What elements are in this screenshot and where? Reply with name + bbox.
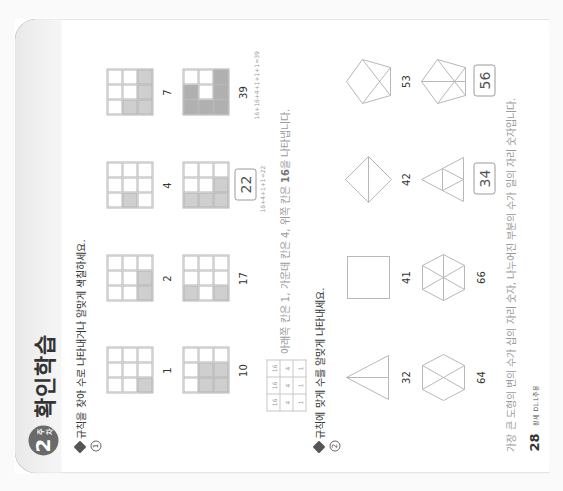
pattern-grid[interactable] xyxy=(182,161,229,208)
grid-cell[interactable] xyxy=(107,84,122,99)
grid-cell[interactable] xyxy=(198,177,213,192)
explanation-prefix: 아래쪽 칸은 1, 가운데 칸은 4, 위쪽 칸은 xyxy=(279,182,290,353)
answer-box[interactable]: 56 xyxy=(473,64,495,96)
grid-cell[interactable] xyxy=(122,255,137,270)
grid-cell[interactable] xyxy=(107,362,122,377)
key-table: 161616444111 xyxy=(266,359,306,411)
grid-cell[interactable] xyxy=(198,84,213,99)
grid-cell[interactable] xyxy=(107,285,122,300)
grid-cell[interactable] xyxy=(198,162,213,177)
pattern-grid[interactable] xyxy=(106,161,153,208)
grid-cell[interactable] xyxy=(213,69,228,84)
grid-cell[interactable] xyxy=(107,347,122,362)
grid-cell[interactable] xyxy=(198,285,213,300)
grid-cell[interactable] xyxy=(137,255,152,270)
grid-cell[interactable] xyxy=(122,285,137,300)
grid-cell[interactable] xyxy=(183,192,198,207)
grid-cell[interactable] xyxy=(213,377,228,392)
grid-cell[interactable] xyxy=(137,270,152,285)
grid-cell[interactable] xyxy=(183,270,198,285)
grid-cell[interactable] xyxy=(137,177,152,192)
explanation-bold: 16 xyxy=(279,169,290,183)
pattern-grid[interactable] xyxy=(106,346,153,393)
grid-cell[interactable] xyxy=(107,270,122,285)
grid-cell[interactable] xyxy=(107,162,122,177)
grid-cell[interactable] xyxy=(183,362,198,377)
pencil-icon xyxy=(312,440,325,453)
grid-cell[interactable] xyxy=(137,192,152,207)
grid-cell[interactable] xyxy=(213,192,228,207)
grid-cell[interactable] xyxy=(183,285,198,300)
key-row: 444 xyxy=(280,360,293,411)
grid-cell[interactable] xyxy=(198,347,213,362)
grid-cell[interactable] xyxy=(107,177,122,192)
grid-cell[interactable] xyxy=(122,192,137,207)
grid-cell[interactable] xyxy=(137,84,152,99)
grid-cell[interactable] xyxy=(137,362,152,377)
key-cell: 16 xyxy=(267,377,280,394)
grid-cell[interactable] xyxy=(137,377,152,392)
grid-cell[interactable] xyxy=(213,177,228,192)
grid-cell[interactable] xyxy=(213,84,228,99)
pattern-grid[interactable] xyxy=(182,68,229,115)
grid-cell[interactable] xyxy=(137,347,152,362)
grid-cell[interactable] xyxy=(198,192,213,207)
grid-cell[interactable] xyxy=(137,69,152,84)
shape-value: 66 xyxy=(475,257,486,297)
grid-cell[interactable] xyxy=(107,69,122,84)
grid-cell[interactable] xyxy=(183,99,198,114)
grid-cell[interactable] xyxy=(183,255,198,270)
grid-cell[interactable] xyxy=(213,270,228,285)
grid-cell[interactable] xyxy=(198,377,213,392)
grid-cell[interactable] xyxy=(213,285,228,300)
pattern-grid[interactable] xyxy=(182,346,229,393)
pattern-grid[interactable] xyxy=(182,254,229,301)
grid-cell[interactable] xyxy=(107,255,122,270)
grid-cell[interactable] xyxy=(107,99,122,114)
key-cell: 4 xyxy=(280,394,293,411)
grid-cell[interactable] xyxy=(122,99,137,114)
grid-cell[interactable] xyxy=(137,162,152,177)
grid-cell[interactable] xyxy=(183,347,198,362)
pattern-grid[interactable] xyxy=(106,254,153,301)
grid-cell[interactable] xyxy=(198,362,213,377)
work-note: 16+4+1+1=22 xyxy=(258,165,265,212)
key-cell: 1 xyxy=(293,394,306,411)
grid-cell[interactable] xyxy=(213,347,228,362)
grid-cell[interactable] xyxy=(183,69,198,84)
pattern-grid[interactable] xyxy=(106,68,153,115)
grid-cell[interactable] xyxy=(122,69,137,84)
grid-cell[interactable] xyxy=(122,362,137,377)
brand-label: 팡세 D1.1주용 xyxy=(530,385,539,425)
grid-cell[interactable] xyxy=(183,177,198,192)
grid-cell[interactable] xyxy=(122,84,137,99)
grid-cell[interactable] xyxy=(213,162,228,177)
grid-cell[interactable] xyxy=(183,377,198,392)
grid-cell[interactable] xyxy=(198,270,213,285)
grid-cell[interactable] xyxy=(122,177,137,192)
grid-cell[interactable] xyxy=(122,270,137,285)
grid-cell[interactable] xyxy=(198,255,213,270)
problem2-instruction: 규칙에 맞게 수를 알맞게 나타내세요. xyxy=(311,287,326,451)
grid-cell[interactable] xyxy=(213,99,228,114)
grid-cell[interactable] xyxy=(122,377,137,392)
answer-box[interactable]: 22 xyxy=(234,168,256,200)
grid-cell[interactable] xyxy=(107,377,122,392)
problem2-instruction-text: 규칙에 맞게 수를 알맞게 나타내세요. xyxy=(311,287,326,438)
grid-cell[interactable] xyxy=(122,347,137,362)
grid-cell[interactable] xyxy=(213,255,228,270)
hexagon-4-shape-icon xyxy=(419,353,471,401)
triangle-split-shape-icon xyxy=(344,353,396,401)
grid-cell[interactable] xyxy=(183,162,198,177)
answer-box[interactable]: 34 xyxy=(473,162,495,194)
key-row: 111 xyxy=(293,360,306,411)
grid-cell[interactable] xyxy=(122,162,137,177)
explanation-suffix: 을 나타냅니다. xyxy=(279,108,290,168)
grid-cell[interactable] xyxy=(198,99,213,114)
grid-cell[interactable] xyxy=(137,99,152,114)
grid-cell[interactable] xyxy=(137,285,152,300)
grid-cell[interactable] xyxy=(213,362,228,377)
grid-cell[interactable] xyxy=(107,192,122,207)
grid-cell[interactable] xyxy=(183,84,198,99)
grid-cell[interactable] xyxy=(198,69,213,84)
